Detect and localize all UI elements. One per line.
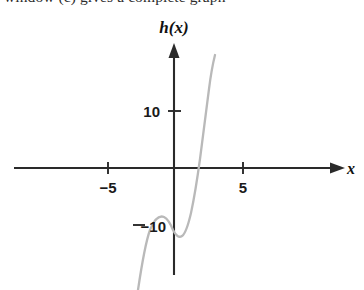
x-tick-label-neg5: −5 (99, 179, 116, 196)
x-axis-arrow-icon (330, 163, 345, 174)
cubic-graph-plot: h(x) x 10 −10 −5 5 (0, 13, 364, 290)
caption-strip: window (c) gives a complete graph (0, 0, 364, 13)
x-axis-label: x (346, 160, 355, 177)
x-tick-label-pos5: 5 (239, 179, 247, 196)
y-axis-arrow-icon (169, 43, 180, 58)
y-tick-label-neg10: −10 (141, 218, 166, 235)
caption-text: window (c) gives a complete graph (4, 0, 364, 5)
function-curve (138, 55, 215, 290)
function-label: h(x) (159, 18, 188, 37)
graph-figure: h(x) x 10 −10 −5 5 (0, 13, 364, 290)
y-tick-label-10: 10 (143, 103, 160, 120)
